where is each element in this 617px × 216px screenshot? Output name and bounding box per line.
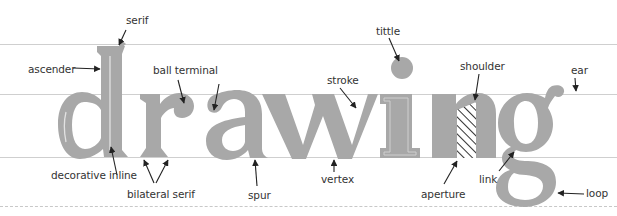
label-serif: serif [126,14,148,26]
letter-g [496,85,564,207]
ascender-arrow [73,68,100,69]
tittle-arrow [389,38,399,61]
label-aperture: aperture [421,188,465,200]
label-decorative-inline: decorative inline [51,169,137,181]
aperture-arrow [444,161,457,184]
label-vertex: vertex [321,173,354,185]
letter-w [262,94,378,159]
aperture-hatch [457,102,476,158]
label-link: link [479,173,497,185]
letter-r [140,93,194,157]
label-ear: ear [571,64,588,76]
spur-arrow [255,160,257,186]
letter-i [380,57,420,158]
label-spur: spur [248,189,271,201]
bilateral-serif-arrow-right [156,160,168,183]
word-drawing-artwork [0,0,617,216]
type-anatomy-diagram: serif ascender ball terminal decorative … [0,0,617,216]
label-shoulder: shoulder [460,60,505,72]
ear-arrow [575,78,576,91]
label-ascender: ascender [28,63,75,75]
bilateral-serif-arrow-left [144,160,154,183]
label-loop: loop [586,187,608,199]
stroke-arrow [340,88,356,108]
loop-arrow [558,193,584,194]
label-ball-terminal: ball terminal [153,64,218,76]
label-tittle: tittle [376,25,400,37]
label-stroke: stroke [327,74,359,86]
letter-d [58,38,128,159]
label-bilateral-serif: bilateral serif [127,188,195,200]
